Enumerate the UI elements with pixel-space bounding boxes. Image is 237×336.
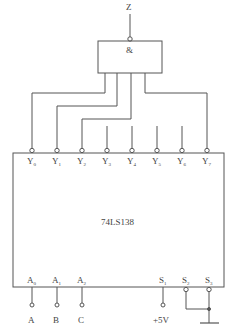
and-symbol: &: [126, 46, 133, 55]
signal-label-vcc: +5V: [153, 316, 169, 325]
chip-name: 74LS138: [101, 217, 134, 227]
input-label-a2: A2: [77, 276, 86, 286]
output-label-y7: Y7: [202, 157, 211, 167]
y7-wire: [145, 73, 207, 149]
enable-label-s2: S2: [182, 276, 190, 286]
signal-label-b: B: [53, 316, 59, 325]
a-terminal: [30, 303, 34, 307]
y1-wire: [57, 73, 117, 149]
output-label-y5: Y5: [152, 157, 161, 167]
enable-label-s3: S3: [205, 276, 213, 286]
s2-wire: [186, 292, 209, 309]
signal-label-c: C: [78, 316, 84, 325]
input-label-a1: A1: [52, 276, 61, 286]
junction-dot: [208, 308, 211, 311]
output-label-y6: Y6: [177, 157, 186, 167]
output-label-y1: Y1: [52, 157, 61, 167]
output-label-y3: Y3: [102, 157, 111, 167]
vcc-terminal: [161, 303, 165, 307]
c-terminal: [80, 303, 84, 307]
y0-wire: [32, 73, 105, 149]
output-label-y4: Y4: [127, 157, 136, 167]
output-label-y2: Y2: [77, 157, 86, 167]
b-terminal: [55, 303, 59, 307]
output-label-y0: Y0: [27, 157, 36, 167]
z-label: Z: [126, 3, 132, 12]
input-label-a0: A0: [27, 276, 36, 286]
enable-label-s1: S1: [159, 276, 167, 286]
signal-label-a: A: [28, 316, 35, 325]
